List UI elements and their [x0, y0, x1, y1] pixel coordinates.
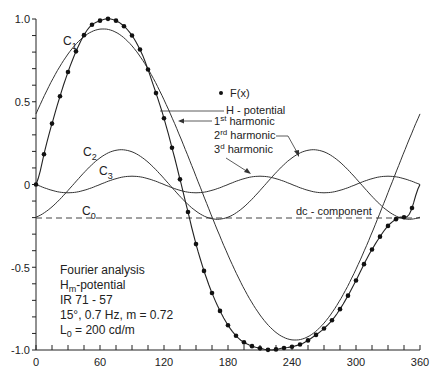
y-tick-label: 0: [24, 179, 30, 191]
y-tick-labels: 1.0 0.5 0 -0.5 -1.0: [11, 13, 30, 356]
fx-data-point: [66, 70, 71, 75]
first-harmonic-label: 1st harmonic: [214, 114, 275, 127]
fx-data-point: [138, 47, 143, 52]
fx-data-point: [282, 346, 287, 351]
fx-data-point: [58, 94, 63, 99]
fx-data-point: [34, 182, 39, 187]
x-tick-label: 240: [283, 356, 301, 368]
fx-data-point: [258, 346, 263, 351]
fx-data-point: [250, 344, 255, 349]
fx-data-point: [242, 340, 247, 345]
info-params: 15°, 0.7 Hz, m = 0.72: [60, 308, 174, 322]
fx-data-point: [410, 206, 415, 211]
info-block: Fourier analysis Hm-potential IR 71 - 57…: [60, 263, 174, 339]
info-ir: IR 71 - 57: [60, 293, 113, 307]
fx-data-point: [154, 91, 159, 96]
fx-data-point: [354, 278, 359, 283]
fx-data-point: [50, 121, 55, 126]
fx-data-point: [306, 338, 311, 343]
fx-data-point: [186, 210, 191, 215]
x-tick-label: 180: [219, 356, 237, 368]
y-tick-label: -0.5: [11, 262, 30, 274]
x-tick-label: 60: [94, 356, 106, 368]
info-potential: Hm-potential: [60, 278, 126, 294]
x-tick-label: 300: [347, 356, 365, 368]
fx-data-point: [274, 347, 279, 352]
x-tick-label: 360: [411, 356, 429, 368]
fx-data-point: [98, 18, 103, 23]
arrow-head-icon: [244, 168, 251, 174]
fx-data-point: [362, 262, 367, 267]
info-title: Fourier analysis: [60, 263, 145, 277]
fx-data-point: [114, 18, 119, 23]
fx-data-point: [234, 333, 239, 338]
third-harmonic-leader: [226, 158, 248, 172]
fx-data-point: [82, 33, 87, 38]
y-tick-label: -1.0: [11, 344, 30, 356]
y-tick-label: 0.5: [15, 96, 30, 108]
fx-data-point: [314, 333, 319, 338]
fx-legend-label: F(x): [230, 87, 250, 99]
fx-data-point: [218, 309, 223, 314]
dc-component-label: dc - component: [296, 205, 372, 217]
y-tick-label: 1.0: [15, 13, 30, 25]
fx-data-point: [322, 326, 327, 331]
third-harmonic-label: 3d harmonic: [214, 142, 273, 155]
fx-data-point: [266, 348, 271, 353]
second-harmonic-label: 2rd harmonic: [214, 128, 276, 141]
c2-label: C2: [83, 145, 97, 162]
x-tick-label: 120: [155, 356, 173, 368]
arrow-head-icon: [178, 119, 184, 124]
x-ticks: [36, 345, 420, 350]
fx-data-point: [394, 217, 399, 222]
c3-label: C3: [99, 164, 113, 181]
fx-data-point: [370, 247, 375, 252]
c1-label: C1: [63, 34, 77, 51]
fx-data-point: [210, 291, 215, 296]
fx-data-point: [226, 323, 231, 328]
c3-third-harmonic-curve: [36, 176, 420, 193]
fx-data-point: [42, 152, 47, 157]
fx-data-point: [178, 177, 183, 182]
fx-data-point: [146, 67, 151, 72]
fx-data-point: [202, 269, 207, 274]
fx-data-point: [106, 17, 111, 22]
fx-data-point: [162, 116, 167, 121]
fx-data-point: [330, 318, 335, 323]
fx-data-point: [378, 234, 383, 239]
fx-data-point: [338, 307, 343, 312]
x-tick-label: 0: [33, 356, 39, 368]
fx-data-point: [298, 342, 303, 347]
fx-data-point: [290, 344, 295, 349]
info-luminance: L0 = 200 cd/m: [60, 323, 135, 339]
fourier-chart: 1.0 0.5 0 -0.5 -1.0 0 60 120 180 240 300…: [0, 0, 445, 380]
fx-data-point: [194, 242, 199, 247]
x-tick-labels: 0 60 120 180 240 300 360: [33, 356, 429, 368]
fx-data-point: [386, 224, 391, 229]
fx-data-point: [170, 145, 175, 150]
fx-data-point: [90, 22, 95, 27]
fx-data-point: [346, 293, 351, 298]
fx-data-point: [130, 33, 135, 38]
fx-legend-dot-icon: [219, 91, 223, 95]
fx-data-point: [402, 215, 407, 220]
fx-data-point: [122, 24, 127, 29]
